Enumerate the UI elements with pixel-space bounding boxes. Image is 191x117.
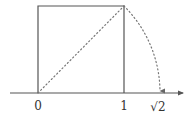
rotation-arc xyxy=(124,6,160,91)
label-zero: 0 xyxy=(34,99,42,113)
sqrt2-diagram: 0 1 √2 xyxy=(0,0,191,117)
square-diagonal xyxy=(38,6,124,93)
label-sqrt2: √2 xyxy=(150,100,165,114)
label-one: 1 xyxy=(120,99,128,113)
